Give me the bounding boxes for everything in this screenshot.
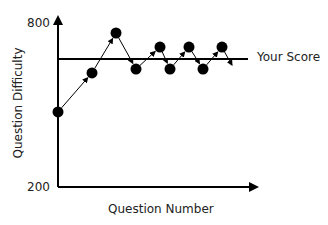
y-tick-800: 800 (27, 16, 50, 30)
difficulty-series (53, 28, 233, 118)
data-point (131, 64, 142, 75)
data-point (111, 28, 122, 39)
series-segment (95, 39, 113, 69)
x-axis-label: Question Number (108, 202, 214, 216)
data-point (217, 42, 228, 53)
data-point (53, 106, 64, 117)
data-point (198, 64, 209, 75)
series-segment (62, 78, 88, 108)
data-point (87, 67, 98, 78)
data-point (155, 42, 166, 53)
data-point (184, 42, 195, 53)
series-segment (162, 52, 167, 63)
your-score-label: Your Score (257, 50, 320, 64)
y-tick-200: 200 (27, 180, 50, 194)
series-segment (192, 52, 200, 64)
data-point (165, 64, 176, 75)
y-axis-label: Question Difficulty (11, 43, 25, 163)
